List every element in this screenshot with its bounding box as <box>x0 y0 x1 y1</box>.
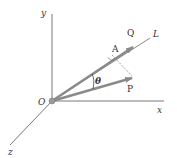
vector-p-label: P <box>127 84 133 94</box>
vector-p-arrow <box>52 78 132 101</box>
z-axis-label: z <box>7 147 13 157</box>
origin-point <box>49 98 55 104</box>
point-a-label: A <box>111 44 119 54</box>
z-axis <box>10 101 52 145</box>
x-axis-label: x <box>157 105 162 115</box>
vector-q-arrow <box>52 47 133 101</box>
vector-projection-diagram: y x z O L Q P A θ <box>0 0 177 158</box>
line-l-label: L <box>152 29 159 39</box>
angle-theta-arc <box>92 74 94 89</box>
vector-q-label: Q <box>127 28 134 38</box>
origin-label: O <box>38 97 46 107</box>
angle-theta-label: θ <box>95 76 101 86</box>
y-axis-label: y <box>40 8 47 18</box>
